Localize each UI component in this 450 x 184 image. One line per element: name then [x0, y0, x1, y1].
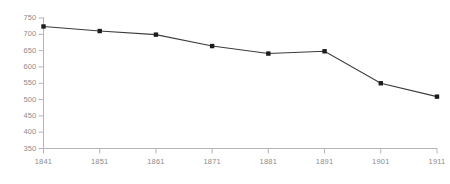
y-axis-tick-label: 350	[15, 145, 37, 153]
data-point-marker	[379, 81, 383, 85]
y-axis-tick-label: 550	[15, 79, 37, 87]
y-axis-ticks	[39, 18, 44, 149]
data-point-markers	[41, 24, 439, 99]
x-axis-ticks	[44, 149, 438, 154]
data-point-marker	[435, 94, 439, 98]
y-axis-tick-label: 700	[15, 30, 37, 38]
y-axis-tick-label: 750	[15, 14, 37, 22]
data-series-line	[44, 26, 438, 96]
y-axis-tick-label: 500	[15, 96, 37, 104]
y-axis-tick-label: 600	[15, 63, 37, 71]
data-point-marker	[210, 44, 214, 48]
data-point-marker	[98, 29, 102, 33]
x-axis-tick-label: 1891	[305, 158, 345, 166]
y-axis-tick-label: 650	[15, 47, 37, 55]
x-axis-tick-label: 1901	[361, 158, 401, 166]
y-axis-tick-label: 450	[15, 112, 37, 120]
x-axis-tick-label: 1871	[192, 158, 232, 166]
data-point-marker	[154, 32, 158, 36]
data-point-marker	[41, 24, 45, 28]
x-axis-tick-label: 1881	[248, 158, 288, 166]
data-point-marker	[266, 51, 270, 55]
x-axis-tick-label: 1841	[24, 158, 64, 166]
data-point-marker	[322, 49, 326, 53]
x-axis-tick-label: 1861	[136, 158, 176, 166]
x-axis-tick-label: 1911	[417, 158, 450, 166]
y-axis-tick-label: 400	[15, 128, 37, 136]
x-axis-tick-label: 1851	[80, 158, 120, 166]
